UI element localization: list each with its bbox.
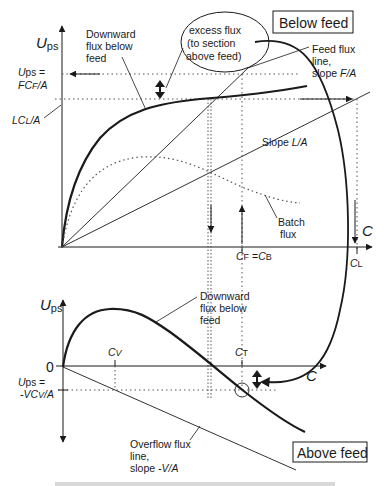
- batch-flux-text-1: Batch: [278, 216, 305, 228]
- flux-diagram: Ups C Ups = FCF/A LCL/A excess flux (to …: [0, 0, 385, 486]
- downward-flux-text-1: Downward: [86, 28, 136, 40]
- excess-flux-text-1: excess flux: [189, 24, 242, 36]
- feed-flux-text-2: line,: [312, 55, 331, 67]
- cv-label: CV: [108, 346, 123, 358]
- downward-flux-text-3: feed: [86, 52, 107, 64]
- top-panel: Ups C Ups = FCF/A LCL/A excess flux (to …: [12, 11, 373, 400]
- bottom-y-axis-label: Ups: [40, 296, 63, 314]
- bottom-flux-curve: [63, 309, 305, 432]
- batch-flux-text-2: flux: [280, 228, 297, 240]
- bottom-downward-text-3: feed: [200, 314, 221, 326]
- ups-fcf-label: Ups =: [18, 66, 45, 78]
- below-feed-label: Below feed: [279, 15, 348, 31]
- excess-flux-leader: [166, 48, 183, 88]
- slope-l-label: Slope L/A: [262, 136, 308, 148]
- overflow-text-1: Overflow flux: [130, 438, 191, 450]
- cf-cb-label: CF =CB: [236, 250, 272, 262]
- bottom-downward-text-2: flux below: [200, 302, 247, 314]
- feed-flux-text-1: Feed flux: [312, 43, 356, 55]
- overflow-leader: [190, 426, 200, 440]
- lcl-label: LCL/A: [12, 114, 40, 126]
- ct-label: CT: [235, 346, 249, 358]
- downward-flux-text-2: flux below: [86, 40, 133, 52]
- bottom-x-axis-label: C: [306, 367, 317, 384]
- above-feed-label: Above feed: [297, 445, 368, 461]
- slope-l-line: [62, 92, 370, 247]
- figure-caption-partial: [55, 482, 335, 486]
- overflow-text-2: line,: [130, 450, 149, 462]
- lcl-leader: [44, 105, 61, 118]
- top-y-axis-label: Ups: [36, 34, 59, 52]
- bottom-downward-leader: [156, 297, 197, 322]
- top-x-axis-label: C: [362, 222, 373, 239]
- downward-flux-leader: [122, 57, 146, 110]
- feed-flux-text-3: slope F/A: [312, 67, 356, 79]
- ups-fcf-label-2: FCF/A: [18, 79, 47, 91]
- cl-label: CL: [350, 257, 363, 269]
- bottom-double-arrow: [252, 370, 262, 389]
- excess-flux-text-2: (to section: [187, 37, 236, 49]
- ups-vcv-label-2: -VCV/A: [20, 388, 54, 400]
- downward-flux-curve: [62, 86, 307, 247]
- excess-flux-text-3: above feed): [186, 50, 241, 62]
- batch-flux-leader: [265, 195, 277, 218]
- batch-flux-curve: [62, 157, 300, 247]
- overflow-text-3: slope -V/A: [130, 462, 178, 474]
- ups-vcv-label: Ups =: [18, 376, 45, 388]
- excess-double-arrow: [155, 80, 165, 99]
- bottom-panel: Ups C 0 Ups = -VCV/A CV CT Overflow flux…: [18, 290, 368, 474]
- bottom-downward-text-1: Downward: [200, 290, 250, 302]
- zero-label: 0: [46, 359, 54, 375]
